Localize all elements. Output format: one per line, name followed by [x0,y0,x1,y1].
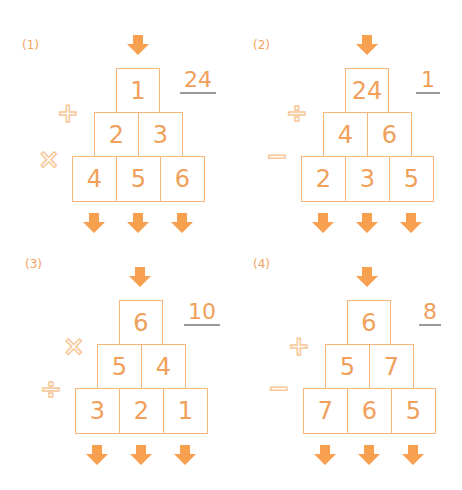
down-arrow-icon [171,213,193,233]
answer-value: 8 [419,300,441,326]
puzzle-label: (3) [25,257,42,271]
down-arrow-icon [402,445,424,465]
operator-lower-icon: ÷ [40,376,62,402]
down-arrow-icon [83,213,105,233]
operator-upper-icon: + [288,333,310,359]
bottom-cell: 6 [160,156,205,202]
operator-upper-icon: ÷ [286,100,308,126]
middle-cell: 6 [367,112,412,157]
answer-value: 1 [416,68,440,94]
puzzle-panel-4: (4)657765+−8 [231,245,462,490]
bottom-cell: 5 [391,388,436,434]
middle-cell: 5 [97,344,142,389]
top-cell: 24 [345,68,389,113]
operator-lower-icon: × [38,146,60,172]
middle-cell: 5 [325,344,370,389]
operator-upper-icon: × [63,333,85,359]
down-arrow-icon [358,445,380,465]
puzzle-label: (1) [22,38,39,52]
puzzle-panel-1: (1)123456+×24 [0,0,231,245]
down-arrow-icon [400,213,422,233]
answer-value: 24 [180,68,216,94]
bottom-cell: 1 [163,388,208,434]
top-cell: 1 [116,68,160,113]
down-arrow-icon [356,35,378,55]
top-cell: 6 [347,300,391,345]
puzzle-panel-2: (2)2446235÷−1 [231,0,462,245]
top-cell: 6 [119,300,163,345]
puzzle-label: (2) [253,38,270,52]
down-arrow-icon [130,445,152,465]
bottom-cell: 5 [389,156,434,202]
bottom-cell: 2 [119,388,164,434]
down-arrow-icon [356,213,378,233]
down-arrow-icon [86,445,108,465]
bottom-cell: 5 [116,156,161,202]
middle-cell: 7 [369,344,414,389]
bottom-cell: 3 [345,156,390,202]
bottom-cell: 4 [72,156,117,202]
bottom-cell: 6 [347,388,392,434]
down-arrow-icon [174,445,196,465]
operator-lower-icon: − [268,375,290,401]
operator-lower-icon: − [266,143,288,169]
down-arrow-icon [314,445,336,465]
middle-cell: 4 [323,112,368,157]
puzzle-label: (4) [253,257,270,271]
down-arrow-icon [127,213,149,233]
operator-upper-icon: + [57,100,79,126]
middle-cell: 2 [94,112,139,157]
puzzle-panel-3: (3)654321×÷10 [0,245,231,490]
down-arrow-icon [127,35,149,55]
answer-value: 10 [184,300,220,326]
down-arrow-icon [356,267,378,287]
down-arrow-icon [129,267,151,287]
down-arrow-icon [312,213,334,233]
bottom-cell: 7 [303,388,348,434]
middle-cell: 4 [141,344,186,389]
bottom-cell: 3 [75,388,120,434]
bottom-cell: 2 [301,156,346,202]
middle-cell: 3 [138,112,183,157]
